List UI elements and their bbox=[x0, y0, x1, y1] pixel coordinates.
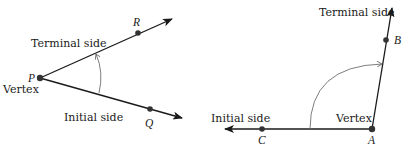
point-R bbox=[135, 30, 141, 36]
label-initial-side: Initial side bbox=[211, 112, 270, 125]
label-B: B bbox=[394, 34, 401, 46]
point-Q bbox=[147, 106, 153, 112]
right-angle-figure: A C B Terminal side Initial side Vertex bbox=[211, 6, 401, 146]
label-vertex: Vertex bbox=[2, 83, 40, 96]
left-angle-figure: R P Q Terminal side Vertex Initial side bbox=[2, 16, 182, 129]
label-R: R bbox=[132, 16, 140, 28]
point-C bbox=[259, 126, 265, 132]
label-A: A bbox=[367, 134, 376, 146]
vertex-point-P bbox=[37, 75, 43, 81]
label-terminal-side: Terminal side bbox=[319, 6, 395, 19]
point-B bbox=[383, 37, 389, 43]
label-vertex: Vertex bbox=[335, 112, 373, 125]
angle-diagrams: R P Q Terminal side Vertex Initial side … bbox=[0, 0, 404, 147]
label-C: C bbox=[258, 134, 266, 146]
terminal-side-ray bbox=[372, 8, 392, 129]
label-initial-side: Initial side bbox=[64, 111, 123, 124]
vertex-point-A bbox=[369, 126, 375, 132]
label-Q: Q bbox=[145, 117, 154, 129]
angle-arc bbox=[96, 54, 101, 93]
label-terminal-side: Terminal side bbox=[31, 37, 107, 50]
